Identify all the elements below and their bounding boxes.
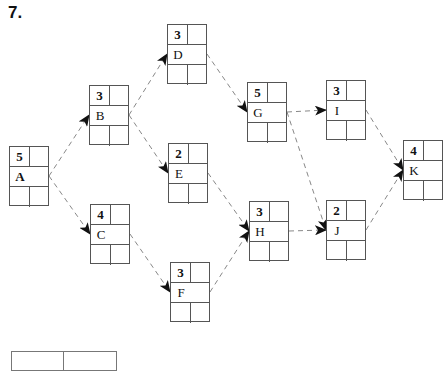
duration-value: 3 <box>90 86 110 105</box>
duration-value: 3 <box>250 202 270 221</box>
edge-j-k <box>366 170 403 230</box>
legend-divider <box>63 352 64 370</box>
duration-value: 3 <box>171 263 191 282</box>
activity-label: B <box>90 106 110 125</box>
activity-node-b: 3 B <box>89 85 129 145</box>
duration-value: 3 <box>327 81 347 100</box>
edge-a-c <box>49 176 90 234</box>
duration-value: 4 <box>91 205 111 224</box>
edge-g-i <box>287 110 326 112</box>
activity-label: F <box>171 283 191 302</box>
activity-label: J <box>327 221 347 240</box>
activity-node-e: 2 E <box>168 143 208 203</box>
edge-e-h <box>208 173 249 231</box>
duration-value: 4 <box>404 141 424 160</box>
activity-label: C <box>91 225 111 244</box>
edge-g-j <box>287 112 326 230</box>
activity-label: A <box>10 167 30 186</box>
activity-node-i: 3 I <box>326 80 366 140</box>
duration-value: 3 <box>168 25 188 44</box>
activity-label: K <box>404 161 424 180</box>
activity-node-a: 5 A <box>9 146 49 206</box>
edge-a-b <box>49 115 89 176</box>
activity-label: G <box>248 103 268 122</box>
duration-value: 5 <box>248 83 268 102</box>
activity-node-d: 3 D <box>167 24 207 84</box>
edge-f-h <box>210 231 249 292</box>
duration-value: 2 <box>169 144 189 163</box>
activity-label: I <box>327 101 347 120</box>
partial-legend-box <box>11 351 117 371</box>
edge-c-f <box>130 234 170 292</box>
activity-node-j: 2 J <box>326 200 366 260</box>
edge-d-g <box>207 54 247 112</box>
edge-i-k <box>366 110 403 170</box>
activity-node-h: 3 H <box>249 201 289 261</box>
edge-b-e <box>129 115 168 173</box>
activity-label: H <box>250 222 270 241</box>
duration-value: 2 <box>327 201 347 220</box>
activity-node-g: 5 G <box>247 82 287 142</box>
activity-node-f: 3 F <box>170 262 210 322</box>
duration-value: 5 <box>10 147 30 166</box>
edge-b-d <box>129 54 167 115</box>
activity-label: D <box>168 45 188 64</box>
activity-node-k: 4 K <box>403 140 443 200</box>
edge-h-j <box>289 230 326 231</box>
activity-node-c: 4 C <box>90 204 130 264</box>
activity-label: E <box>169 164 189 183</box>
